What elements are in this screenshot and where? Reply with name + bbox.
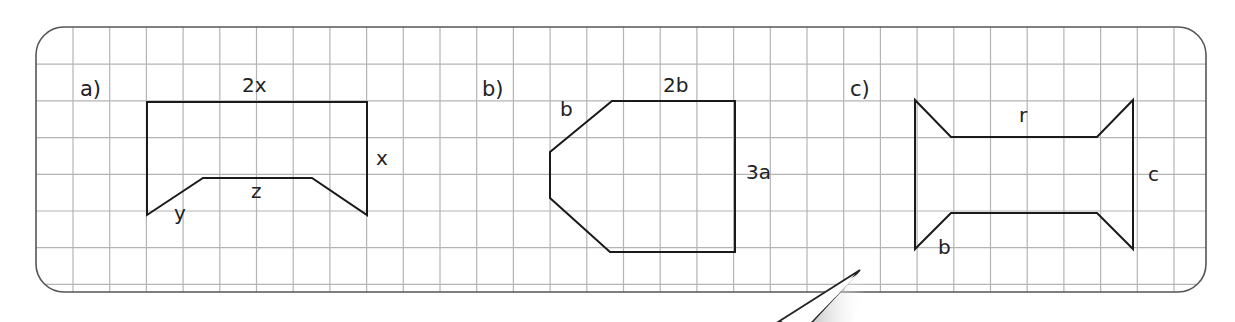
- figure-a-edge-label: y: [174, 203, 186, 223]
- figures-layer: [147, 100, 1133, 252]
- speech-pointer: [778, 270, 866, 322]
- diagram-canvas: [0, 0, 1235, 322]
- figure-a-edge-label: z: [251, 181, 262, 201]
- figure-a-edge-label: 2x: [242, 75, 267, 95]
- figure-b-edge-label: 2b: [663, 75, 688, 95]
- figure-b-part-label: b): [482, 79, 504, 100]
- figure-a-part-label: a): [80, 79, 101, 100]
- figure-b-edge-label: 3a: [746, 162, 771, 182]
- figure-c-edge-label: r: [1019, 105, 1027, 125]
- figure-c-edge-label: c: [1148, 164, 1159, 184]
- figure-b-edge-label: b: [560, 99, 573, 119]
- figure-c-edge-label: b: [938, 237, 951, 257]
- figure-a-edge-label: x: [376, 148, 388, 168]
- figure-b-outline: [550, 101, 735, 252]
- figure-c-part-label: c): [850, 79, 870, 100]
